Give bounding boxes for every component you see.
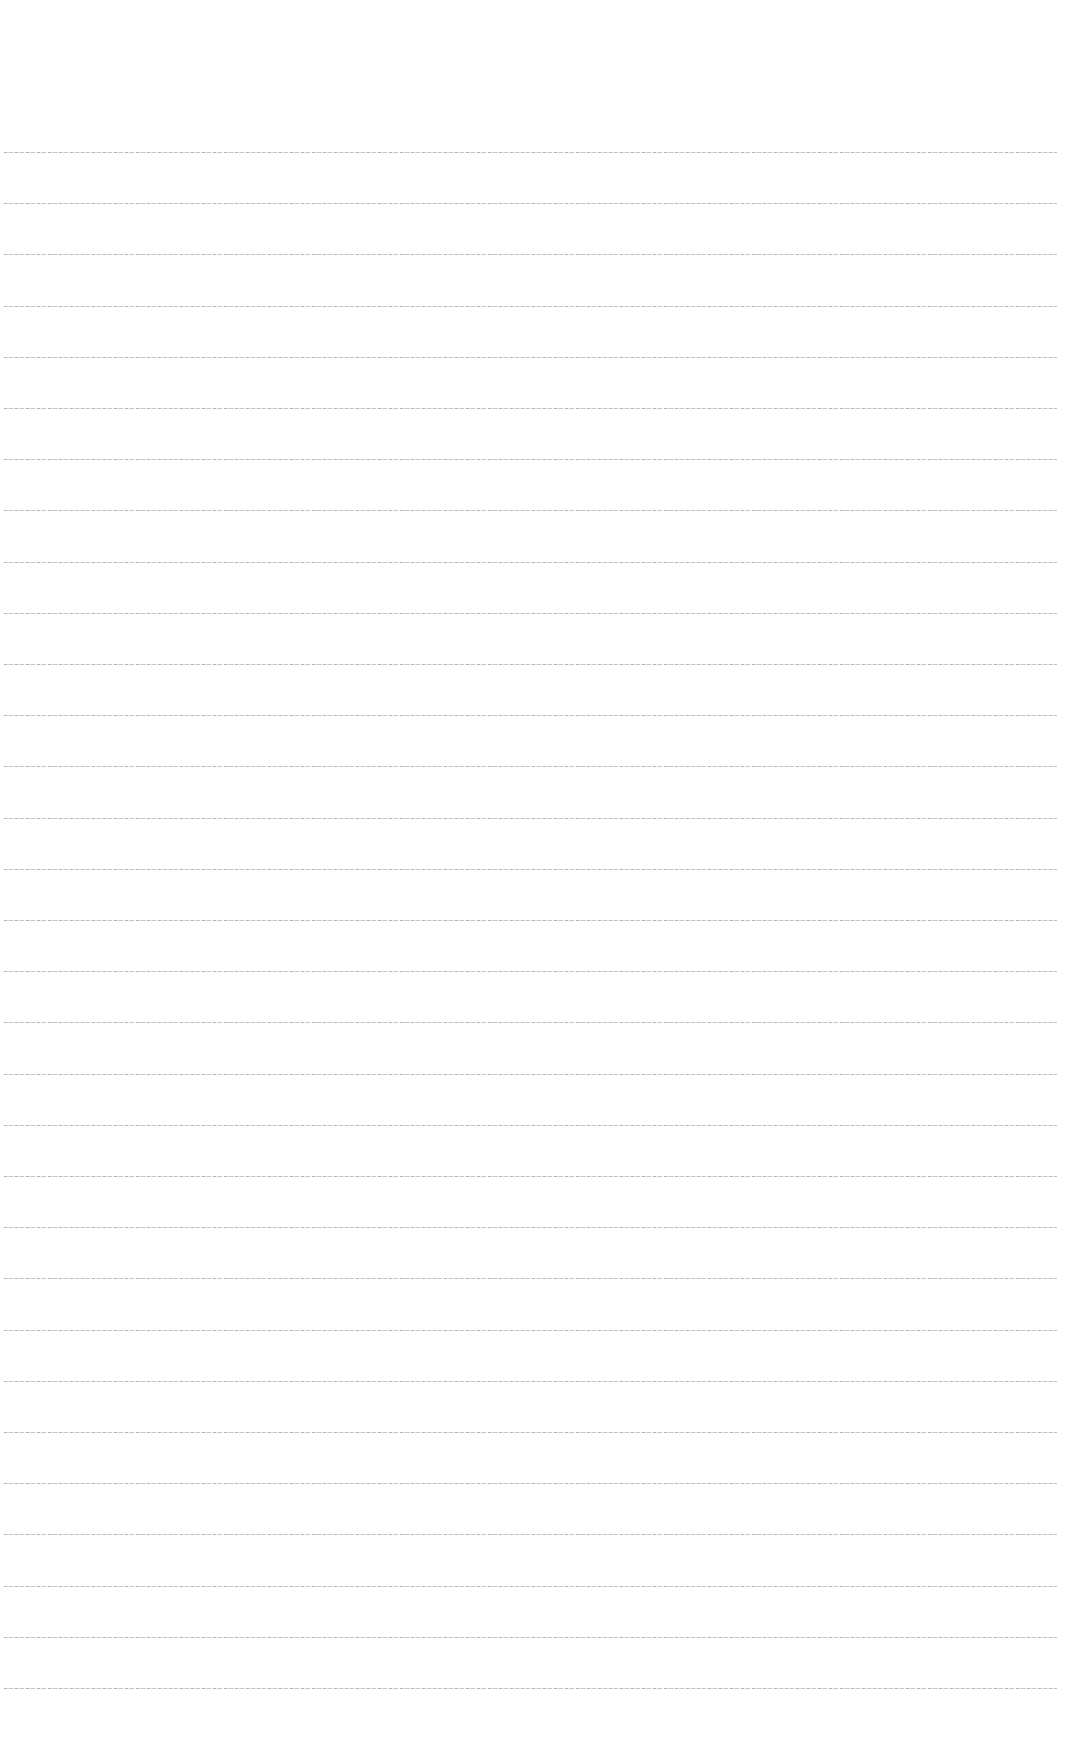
ruled-line — [4, 1534, 1057, 1535]
ruled-line — [4, 1586, 1057, 1587]
ruled-line — [4, 357, 1057, 358]
ruled-line — [4, 459, 1057, 460]
ruled-line — [4, 1176, 1057, 1177]
ruled-line — [4, 306, 1057, 307]
ruled-line — [4, 869, 1057, 870]
ruled-line — [4, 920, 1057, 921]
ruled-line — [4, 203, 1057, 204]
ruled-line — [4, 971, 1057, 972]
ruled-page — [0, 0, 1065, 1740]
ruled-line — [4, 766, 1057, 767]
ruled-line — [4, 152, 1057, 153]
ruled-line — [4, 613, 1057, 614]
ruled-line — [4, 1278, 1057, 1279]
ruled-line — [4, 1483, 1057, 1484]
ruled-line — [4, 1637, 1057, 1638]
ruled-line — [4, 254, 1057, 255]
ruled-line — [4, 408, 1057, 409]
ruled-line — [4, 1381, 1057, 1382]
ruled-line — [4, 1022, 1057, 1023]
ruled-line — [4, 510, 1057, 511]
ruled-line — [4, 1125, 1057, 1126]
ruled-line — [4, 1074, 1057, 1075]
ruled-line — [4, 562, 1057, 563]
ruled-line — [4, 1227, 1057, 1228]
ruled-line — [4, 1432, 1057, 1433]
ruled-line — [4, 715, 1057, 716]
ruled-line — [4, 1688, 1057, 1689]
ruled-line — [4, 818, 1057, 819]
ruled-line — [4, 1330, 1057, 1331]
ruled-line — [4, 664, 1057, 665]
